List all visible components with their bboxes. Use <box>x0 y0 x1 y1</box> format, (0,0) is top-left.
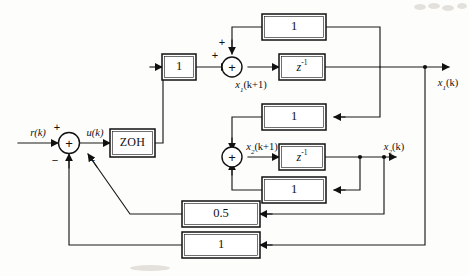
state2-summer-symbol: + <box>228 150 236 165</box>
outer-half-gain-label: 0.5 <box>213 206 229 220</box>
input-summer-sign-minus-2: − <box>89 154 95 166</box>
label-state1-next: x1(k+1) <box>234 79 267 94</box>
lower-unit-delay-block[interactable]: z-1 <box>279 144 325 170</box>
upper-feedforward-gain-label: 1 <box>291 19 297 33</box>
label-control-input: u(k) <box>87 127 104 139</box>
wire-x2-tap-to-lower-gain <box>337 157 360 190</box>
upper-unit-delay-block[interactable]: z-1 <box>279 54 325 80</box>
block-diagram-figure: + + − − + + + + ZOH 1 <box>0 0 469 276</box>
label-state2-next: x2(k+1) <box>245 141 278 156</box>
input-summer-sign-plus: + <box>54 121 60 133</box>
state1-summer-sign-plus-left: + <box>212 49 218 61</box>
state1-summer-sign-plus-top: + <box>219 36 225 48</box>
outer-feedback-gain-half-block[interactable]: 0.5 <box>182 201 260 227</box>
cross-coupling-gain-block[interactable]: 1 <box>262 104 326 130</box>
wire-lower-gain-to-summer2 <box>232 166 262 190</box>
lower-feedback-gain-block[interactable]: 1 <box>262 177 326 203</box>
node-dot-x2-local <box>358 155 362 159</box>
zero-order-hold-block[interactable]: ZOH <box>110 129 155 157</box>
upper-delay-exponent: -1 <box>301 58 307 67</box>
zoh-label: ZOH <box>120 135 146 149</box>
input-summer-sign-minus-1: − <box>52 154 58 166</box>
outer-feedback-gain-one-block[interactable]: 1 <box>182 232 260 258</box>
state2-summing-junction[interactable]: + <box>222 147 242 167</box>
wire-top-gain-from-x1 <box>326 27 380 67</box>
upper-feedforward-gain-block[interactable]: 1 <box>262 14 326 40</box>
lower-feedback-gain-label: 1 <box>291 182 297 196</box>
wire-x1-tap-to-cross-gain <box>337 67 380 117</box>
lower-delay-exponent: -1 <box>301 148 307 157</box>
input-gain-label: 1 <box>176 59 182 73</box>
wire-half-gain-to-input-summer <box>90 157 182 214</box>
wire-one-gain-to-input-summer <box>69 157 182 245</box>
state1-summer-symbol: + <box>228 60 236 75</box>
input-gain-block[interactable]: 1 <box>162 54 196 80</box>
label-reference-input: r(k) <box>30 127 46 139</box>
wire-upper-feedback-into-summer1 <box>232 27 262 52</box>
node-dot-x2-outer <box>382 155 386 159</box>
label-state2-output: x2(k) <box>383 141 405 156</box>
label-state1-output: x1(k) <box>437 77 459 92</box>
state1-summing-junction[interactable]: + + + <box>212 36 242 77</box>
cross-coupling-gain-label: 1 <box>291 109 297 123</box>
diagram-canvas: + + − − + + + + ZOH 1 <box>0 0 469 276</box>
node-dot-x1 <box>423 65 427 69</box>
input-summer-symbol: + <box>65 136 73 151</box>
outer-one-gain-label: 1 <box>218 237 224 251</box>
scan-artifact-smudges <box>130 3 467 271</box>
